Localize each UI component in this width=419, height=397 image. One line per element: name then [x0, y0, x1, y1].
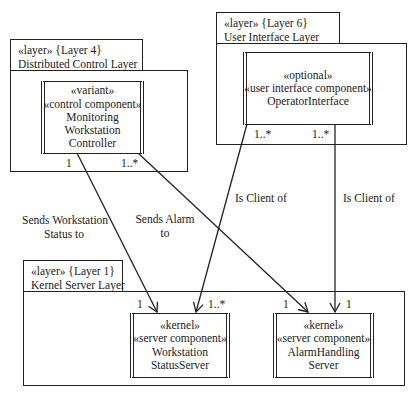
label-line: Sends Alarm [134, 212, 196, 226]
sends-alarm-label: Sends Alarm to [134, 212, 196, 240]
layer1-stereotype: «layer» {Layer 1} [31, 264, 122, 278]
sends-status-label: Sends Workstation Status to [22, 213, 106, 241]
label-line: Is Client of [235, 191, 285, 205]
layer4-tab[interactable]: «layer» {Layer 4} Distributed Control La… [10, 39, 143, 71]
monitoring-workstation-controller-component[interactable]: «variant» «control component» Monitoring… [41, 81, 144, 154]
layer6-name: User Interface Layer [224, 30, 339, 44]
label-line: Status to [22, 227, 106, 241]
component-name-line: AlarmHandling [287, 346, 359, 359]
component-stereotype: «user interface component» [244, 82, 372, 95]
component-stereotype-kernel: «kernel» [160, 319, 200, 332]
component-name-line: Server [308, 359, 338, 372]
layer6-stereotype: «layer» {Layer 6} [224, 16, 339, 30]
component-name: OperatorInterface [267, 95, 349, 108]
sends-status-target-multiplicity: 1 [137, 298, 143, 310]
label-line: to [134, 226, 196, 240]
component-stereotype: «control component» [43, 98, 141, 111]
client-alarm-source-multiplicity: 1..* [312, 128, 329, 140]
component-name-line: Workstation [65, 124, 121, 137]
client-status-target-multiplicity: 1..* [208, 298, 225, 310]
component-stereotype: «server component» [133, 332, 227, 345]
sends-status-source-multiplicity: 1 [66, 157, 72, 169]
component-name-line: Controller [69, 137, 116, 150]
layer4-stereotype: «layer» {Layer 4} [18, 43, 142, 57]
component-name-line: Monitoring [66, 111, 118, 124]
operator-interface-component[interactable]: «optional» «user interface component» Op… [243, 52, 373, 125]
component-stereotype: «server component» [277, 332, 371, 345]
alarm-handling-server-component[interactable]: «kernel» «server component» AlarmHandlin… [273, 313, 374, 378]
sends-alarm-source-multiplicity: 1..* [121, 157, 138, 169]
label-line: Sends Workstation [22, 213, 106, 227]
client-status-source-multiplicity: 1..* [254, 128, 271, 140]
client-alarm-target-multiplicity: 1 [346, 298, 352, 310]
client-alarm-label: Is Client of [343, 191, 393, 205]
layer4-name: Distributed Control Layer [18, 57, 142, 71]
label-line: Is Client of [343, 191, 393, 205]
layer1-tab[interactable]: «layer» {Layer 1} Kernel Server Layer [23, 260, 123, 292]
layer6-tab[interactable]: «layer» {Layer 6} User Interface Layer [216, 12, 340, 44]
sends-alarm-target-multiplicity: 1 [283, 298, 289, 310]
component-name-line: Workstation [152, 346, 208, 359]
workstation-status-server-component[interactable]: «kernel» «server component» Workstation … [130, 313, 230, 378]
component-stereotype-kernel: «kernel» [303, 319, 343, 332]
component-stereotype-variant: «variant» [71, 84, 114, 97]
client-status-label: Is Client of [235, 191, 285, 205]
client-status-line[interactable] [196, 124, 247, 312]
layer1-name: Kernel Server Layer [31, 278, 122, 292]
component-stereotype-optional: «optional» [283, 69, 332, 82]
component-name-line: StatusServer [151, 359, 209, 372]
